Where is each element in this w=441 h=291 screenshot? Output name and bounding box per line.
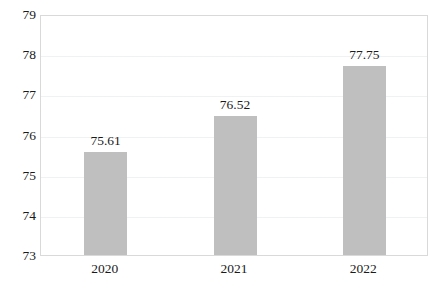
plot-area: 75.6176.5277.75 [40, 15, 428, 256]
bar-group: 77.75 [343, 16, 386, 255]
bar[interactable] [343, 66, 386, 255]
y-tick-label: 73 [2, 249, 36, 263]
y-tick-label: 75 [2, 169, 36, 183]
x-tick-label: 2021 [169, 262, 298, 276]
bar[interactable] [84, 152, 127, 255]
y-tick-label: 77 [2, 88, 36, 102]
y-axis: 73747576777879 [0, 15, 36, 256]
y-tick-label: 79 [2, 8, 36, 22]
y-tick-label: 78 [2, 48, 36, 62]
x-tick-label: 2022 [299, 262, 428, 276]
bar-group: 75.61 [84, 16, 127, 255]
x-tick-label: 2020 [40, 262, 169, 276]
bar-value-label: 77.75 [317, 48, 412, 62]
y-tick-label: 76 [2, 129, 36, 143]
bar[interactable] [214, 116, 257, 255]
x-axis: 202020212022 [40, 262, 428, 282]
bar-value-label: 76.52 [188, 98, 283, 112]
bar-value-label: 75.61 [58, 134, 153, 148]
y-tick-label: 74 [2, 209, 36, 223]
bar-chart: 73747576777879 75.6176.5277.75 202020212… [0, 0, 441, 291]
bar-group: 76.52 [214, 16, 257, 255]
